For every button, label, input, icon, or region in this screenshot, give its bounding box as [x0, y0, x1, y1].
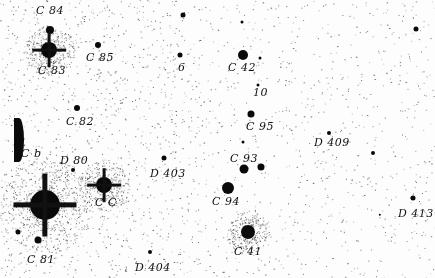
star-label-c81: C 81 [27, 254, 55, 265]
star-label-c95: C 95 [246, 121, 274, 132]
star-6 [178, 53, 183, 58]
star-label-d404: D 404 [135, 262, 171, 273]
star-c42 [238, 50, 248, 60]
star-left-edge-small [16, 230, 21, 235]
star-field-mid-right [371, 151, 375, 155]
grain-noise [0, 0, 435, 278]
star-label-d403: D 403 [150, 168, 186, 179]
star-label-c84: C 84 [36, 5, 64, 16]
star-field-top-2 [241, 21, 244, 24]
star-label-d413: D 413 [398, 208, 434, 219]
star-c81 [35, 237, 42, 244]
star-label-c85: C 85 [86, 52, 114, 63]
star-label-c42: C 42 [228, 62, 256, 73]
star-d404 [148, 250, 152, 254]
star-c41 [241, 225, 255, 239]
star-label-c41: C 41 [234, 246, 262, 257]
star-d413 [411, 196, 416, 201]
star-c93-companion [258, 164, 265, 171]
diffraction-spike [48, 33, 51, 67]
star-label-c83: C 83 [38, 65, 66, 76]
star-label-cb: C b [21, 148, 41, 159]
star-d403 [162, 156, 167, 161]
star-field-top [181, 13, 186, 18]
star-field-plate: C 84C 83C 856C 4210C 82C 95D 409C bD 80D… [0, 0, 435, 278]
star-label-c94: C 94 [212, 196, 240, 207]
star-c42-companion [259, 57, 262, 60]
star-label-d409: D 409 [314, 137, 350, 148]
star-label-c82: C 82 [66, 116, 94, 127]
star-c93 [240, 165, 249, 174]
star-d80 [71, 168, 75, 172]
diffraction-spike [42, 174, 47, 237]
star-c82 [74, 105, 80, 111]
star-c93-small [242, 141, 245, 144]
star-label-c93: C 93 [230, 153, 258, 164]
star-label-6: 6 [178, 62, 186, 73]
star-label-d80: D 80 [60, 155, 88, 166]
star-c94 [222, 182, 234, 194]
star-c95 [248, 111, 255, 118]
star-label-10: 10 [253, 87, 268, 98]
star-d409 [327, 131, 331, 135]
star-c85 [95, 42, 101, 48]
star-label-cc: C C [95, 197, 117, 208]
star-field-right [414, 27, 419, 32]
